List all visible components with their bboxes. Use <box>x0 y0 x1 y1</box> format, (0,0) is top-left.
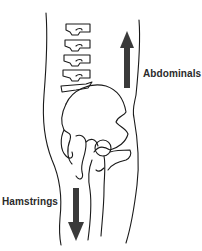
abdominals-label: Abdominals <box>143 68 201 79</box>
hamstrings-arrow <box>68 188 84 241</box>
hamstrings-label: Hamstrings <box>2 196 58 207</box>
spine-icon <box>61 24 92 92</box>
femur <box>88 160 92 240</box>
back-contour <box>43 13 61 245</box>
abdominals-arrow <box>120 31 134 88</box>
anatomy-diagram: Abdominals Hamstrings <box>0 0 202 251</box>
pelvis-spine-illustration <box>0 0 202 251</box>
